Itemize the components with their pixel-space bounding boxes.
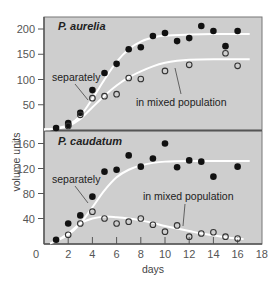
annotation-top-separately: separately [52,71,101,83]
filled-point [89,193,96,200]
filled-point [53,125,60,132]
y-tick-label: 200 [17,23,35,35]
filled-point [138,163,145,170]
x-tick-label: 6 [114,248,120,260]
population-growth-chart: 50100150200 4080120160 24681012141618 P.… [0,0,279,281]
x-tick-label: 8 [138,248,144,260]
x-axis-title: days [142,263,164,275]
x-tick-label: 18 [256,248,268,260]
annotation-bottom-separately: separately [52,173,101,185]
x-tick-label: 16 [231,248,243,260]
panel-title-caudatum: P. caudatum [58,135,122,147]
filled-point [101,70,108,77]
y-tick-label: 40 [23,213,35,225]
y-tick-label: 150 [17,48,35,60]
filled-point [210,173,217,180]
filled-point [222,43,229,50]
filled-point [186,35,193,42]
panel-title-aurelia: P. aurelia [58,20,106,32]
x-tick-label-zero: 0 [33,248,39,260]
filled-point [89,87,96,94]
annotation-top-mixed: in mixed population [136,96,227,108]
filled-point [234,28,241,35]
filled-point [186,157,193,164]
y-tick-label: 80 [23,188,35,200]
filled-point [113,61,120,68]
filled-point [210,28,217,35]
filled-point [174,38,181,45]
filled-point [198,158,205,165]
filled-point [150,155,157,162]
y-axis-title: volume units [10,133,22,192]
filled-point [125,152,132,159]
filled-point [125,46,132,53]
filled-point [198,23,205,30]
annotation-bottom-mixed: in mixed population [143,190,234,202]
filled-point [162,140,169,147]
y-axis-ticks-top: 50100150200 [17,23,44,111]
filled-point [53,236,60,243]
filled-point [65,220,72,227]
x-tick-label: 12 [183,248,195,260]
filled-point [162,30,169,37]
filled-point [77,212,84,219]
filled-point [150,33,157,40]
x-tick-label: 2 [65,248,71,260]
y-tick-label: 100 [17,74,35,86]
filled-point [113,166,120,173]
x-tick-label: 4 [89,248,95,260]
x-tick-label: 10 [159,248,171,260]
filled-point [174,164,181,171]
filled-point [234,163,241,170]
x-tick-label: 14 [207,248,219,260]
filled-point [101,168,108,175]
filled-point [138,44,145,51]
y-tick-label: 50 [23,99,35,111]
